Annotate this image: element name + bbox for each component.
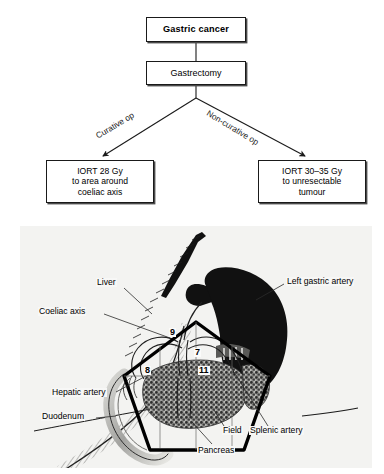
anatomy-illustration-panel: Liver Coeliac axis Left gastric artery H… (20, 226, 372, 468)
label-coeliac-axis: Coeliac axis (38, 307, 86, 316)
connector-noncurative-branch (196, 98, 305, 156)
lymph-node-station-8: 8 (144, 366, 151, 375)
label-hepatic-artery: Hepatic artery (51, 388, 107, 397)
figure-root: Gastric cancer Gastrectomy IORT 28 Gy to… (0, 0, 384, 474)
leader-coeliac-axis (104, 314, 170, 338)
label-liver: Liver (96, 278, 117, 287)
label-field: Field (222, 426, 243, 435)
label-left-gastric-artery: Left gastric artery (286, 277, 354, 286)
treatment-flowchart: Gastric cancer Gastrectomy IORT 28 Gy to… (0, 0, 384, 222)
label-duodenum: Duodenum (41, 412, 85, 421)
box-iort-curative[interactable]: IORT 28 Gy to area around coeliac axis (46, 160, 154, 203)
box-iort-noncurative[interactable]: IORT 30–35 Gy to unresectable tumour (258, 160, 366, 203)
box-curative-line-1: IORT 28 Gy (77, 166, 123, 176)
leader-liver (124, 288, 152, 314)
label-splenic-artery: Splenic artery (249, 426, 304, 435)
box-gastrectomy[interactable]: Gastrectomy (146, 61, 246, 85)
box-curative-line-3: coeliac axis (78, 187, 122, 197)
lymph-node-station-9: 9 (169, 328, 176, 337)
box-noncurative-line-1: IORT 30–35 Gy (282, 166, 342, 176)
box-noncurative-line-3: tumour (299, 187, 326, 197)
box-gastrectomy-line-1: Gastrectomy (170, 68, 221, 79)
box-gastric-cancer-line-1: Gastric cancer (163, 24, 229, 35)
lymph-node-station-7: 7 (194, 348, 201, 357)
label-pancreas: Pancreas (197, 446, 235, 455)
box-noncurative-line-2: to unresectable (283, 176, 342, 186)
box-gastric-cancer[interactable]: Gastric cancer (146, 17, 246, 42)
lymph-node-station-11: 11 (198, 366, 210, 375)
mesocolon-line-right (302, 408, 358, 416)
box-curative-line-2: to area around (72, 176, 128, 186)
